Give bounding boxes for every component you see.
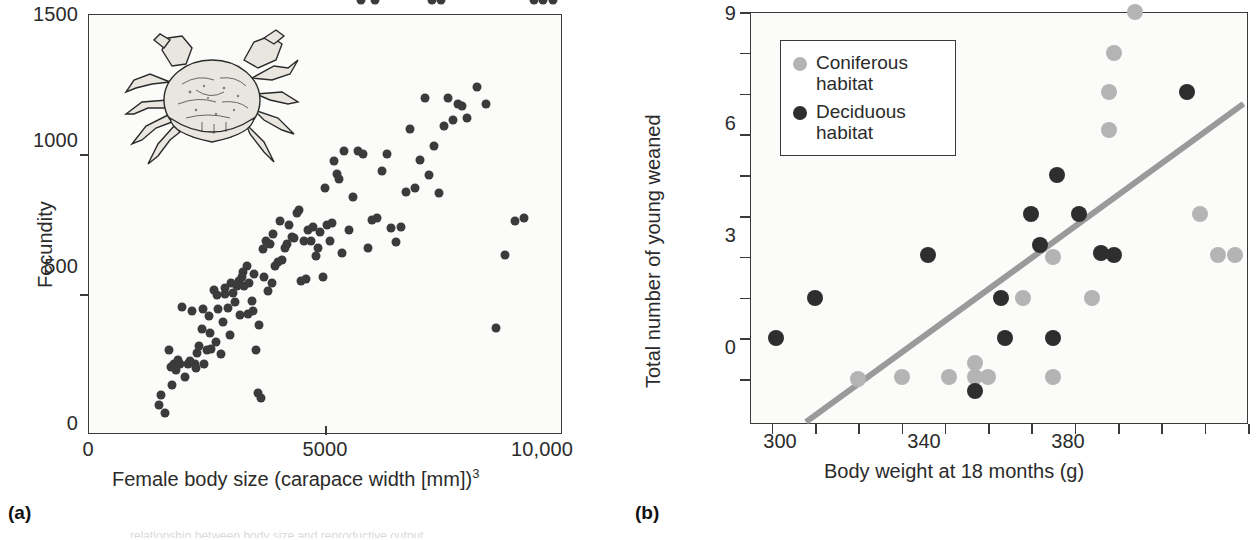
x-tick-mark: [1205, 424, 1207, 434]
data-point: [214, 305, 223, 314]
y-tick-label-6: 6: [686, 112, 736, 135]
legend-label-deciduous: Deciduous habitat: [816, 102, 906, 143]
panel-b-vole-weaning: Total number of young weaned 9 6 3 0 300…: [620, 0, 1257, 540]
data-point: [430, 141, 439, 150]
data-point: [257, 393, 266, 402]
data-point: [294, 206, 303, 215]
data-point: [1084, 290, 1100, 306]
y-tick-mark: [740, 379, 750, 381]
data-point: [425, 171, 434, 180]
x-tick-mark: [1161, 424, 1163, 434]
data-point: [363, 243, 372, 252]
legend-item-coniferous: Coniferous habitat: [793, 53, 945, 94]
data-point: [458, 102, 467, 111]
legend-label-coniferous-line2: habitat: [816, 73, 873, 94]
data-point: [529, 0, 538, 5]
y-tick-label-500: 500: [0, 255, 78, 278]
data-point: [188, 306, 197, 315]
y-axis-title-b: Total number of young weaned: [642, 114, 665, 388]
data-point: [275, 217, 284, 226]
x-tick-mark: [1031, 424, 1033, 434]
data-point: [1127, 4, 1143, 20]
data-point: [1106, 45, 1122, 61]
x-tick-mark: [1248, 424, 1250, 434]
data-point: [349, 193, 358, 202]
x-axis-title-b: Body weight at 18 months (g): [824, 460, 1084, 483]
y-tick-mark-1000: [80, 154, 89, 156]
data-point: [337, 249, 346, 258]
data-point: [313, 243, 322, 252]
data-point: [1192, 206, 1208, 222]
legend-label-coniferous-line1: Coniferous: [816, 52, 908, 73]
data-point: [401, 187, 410, 196]
data-point: [164, 346, 173, 355]
data-point: [993, 290, 1009, 306]
data-point: [415, 155, 424, 164]
data-point: [344, 225, 353, 234]
x-tick-mark-5000: [325, 426, 327, 435]
x-tick-mark: [1118, 424, 1120, 434]
x-tick-label-0: 0: [58, 438, 118, 461]
data-point: [216, 350, 225, 359]
data-point: [339, 147, 348, 156]
data-point: [249, 270, 258, 279]
x-tick-mark: [988, 424, 990, 434]
data-point: [356, 0, 365, 5]
data-point: [290, 234, 299, 243]
data-point: [463, 113, 472, 122]
x-tick-label-380: 380: [1038, 430, 1098, 453]
panel-a-letter: (a): [8, 502, 31, 524]
data-point: [200, 360, 209, 369]
y-tick-mark: [740, 257, 750, 259]
data-point: [377, 166, 386, 175]
data-point: [370, 0, 379, 5]
x-tick-label-300: 300: [750, 430, 810, 453]
data-point: [548, 0, 557, 5]
x-tick-mark: [945, 424, 947, 434]
data-point: [252, 346, 261, 355]
data-point: [226, 330, 235, 339]
y-tick-mark-500: [80, 294, 89, 296]
data-point: [411, 183, 420, 192]
data-point: [807, 290, 823, 306]
data-point: [941, 369, 957, 385]
data-point: [268, 229, 277, 238]
legend-label-deciduous-line2: habitat: [816, 122, 873, 143]
y-tick-mark: [740, 298, 750, 300]
data-point: [520, 214, 529, 223]
legend-item-deciduous: Deciduous habitat: [793, 102, 945, 143]
data-point: [382, 150, 391, 159]
y-tick-mark: [740, 216, 750, 218]
data-point: [768, 330, 784, 346]
data-point: [472, 82, 481, 91]
data-point: [1045, 369, 1061, 385]
x-tick-mark: [902, 424, 904, 434]
data-point: [539, 0, 548, 5]
data-point: [1049, 167, 1065, 183]
panel-b-letter: (b): [635, 502, 659, 524]
data-point: [1045, 249, 1061, 265]
data-point: [155, 400, 164, 409]
y-tick-mark: [740, 134, 750, 136]
crab-illustration: [112, 22, 308, 182]
data-point: [254, 320, 263, 329]
data-point: [278, 256, 287, 265]
data-point: [266, 239, 275, 248]
data-point: [427, 0, 436, 5]
x-tick-mark: [1075, 424, 1077, 434]
data-point: [247, 297, 256, 306]
y-tick-label-1500: 1500: [0, 3, 78, 26]
legend-marker-coniferous-icon: [793, 57, 807, 71]
data-point: [181, 372, 190, 381]
data-point: [997, 330, 1013, 346]
data-point: [211, 337, 220, 346]
data-point: [316, 228, 325, 237]
y-tick-label-9: 9: [686, 2, 736, 25]
data-point: [1015, 290, 1031, 306]
data-point: [1106, 247, 1122, 263]
legend-marker-deciduous-icon: [793, 106, 807, 120]
data-point: [242, 262, 251, 271]
data-point: [219, 318, 228, 327]
panel-a-crab-fecundity: Fecundity 1500 1000 500 0 0 5000 10,000 …: [0, 0, 620, 540]
y-tick-mark: [740, 175, 750, 177]
